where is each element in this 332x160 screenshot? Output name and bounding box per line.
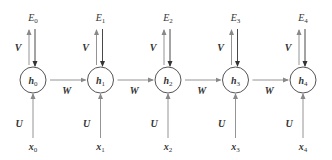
rnn-diagram: h0E0VUx0Wh1E1VUx1Wh2E2VUx2Wh3E3VUx3Wh4E4… (0, 0, 332, 160)
timestep-4: h4E4VUx4 (285, 12, 316, 154)
u-weight-label: U (285, 118, 293, 129)
u-weight-label: U (15, 118, 23, 129)
input-label: x2 (163, 141, 173, 154)
u-weight-label: U (150, 118, 158, 129)
input-label: x4 (298, 141, 308, 154)
w-weight-label: W (265, 85, 275, 96)
input-label: x0 (28, 141, 38, 154)
input-label: x3 (230, 141, 240, 154)
v-weight-label: V (150, 42, 158, 53)
timestep-1: h1E1VUx1W (82, 12, 153, 154)
u-weight-label: U (83, 118, 91, 129)
v-weight-label: V (285, 42, 293, 53)
timestep-0: h0E0VUx0W (15, 12, 86, 154)
output-label: E2 (162, 12, 173, 25)
output-label: E0 (27, 12, 38, 25)
w-weight-label: W (62, 85, 72, 96)
output-label: E1 (95, 12, 106, 25)
v-weight-label: V (15, 42, 23, 53)
timestep-2: h2E2VUx2W (150, 12, 221, 154)
output-label: E3 (230, 12, 241, 25)
w-weight-label: W (197, 85, 207, 96)
v-weight-label: V (82, 42, 90, 53)
u-weight-label: U (218, 118, 226, 129)
output-label: E4 (297, 12, 308, 25)
timestep-3: h3E3VUx3W (217, 12, 288, 154)
v-weight-label: V (217, 42, 225, 53)
input-label: x1 (95, 141, 105, 154)
w-weight-label: W (130, 85, 140, 96)
